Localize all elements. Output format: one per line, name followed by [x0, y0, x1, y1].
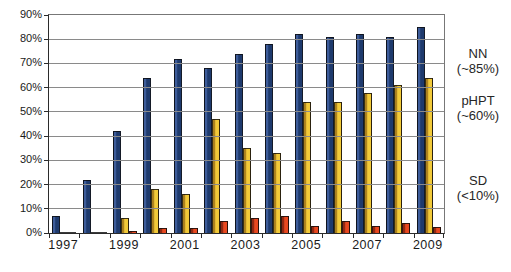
bar-pHPT-2004	[273, 153, 281, 233]
bar-NN-2004	[265, 44, 273, 233]
bar-SD-1998	[99, 232, 107, 233]
bar-pHPT-2006	[334, 102, 342, 233]
x-axis-label-2005: 2005	[291, 238, 321, 252]
bar-NN-2009	[417, 27, 425, 233]
bar-SD-2007	[372, 226, 380, 233]
bar-group-2000	[140, 15, 170, 233]
bar-group-1997	[49, 15, 79, 233]
bar-groups	[49, 15, 444, 233]
annotation-sd-value: (<10%)	[446, 188, 510, 203]
gridline-10%	[49, 208, 444, 209]
gridline-80%	[49, 39, 444, 40]
bar-pHPT-2000	[151, 189, 159, 233]
bar-pHPT-2001	[182, 194, 190, 233]
bar-group-2005	[292, 15, 322, 233]
gridline-40%	[49, 136, 444, 137]
gridline-30%	[49, 160, 444, 161]
bar-SD-2002	[220, 221, 228, 233]
bar-group-2003	[231, 15, 261, 233]
y-tick-10%	[44, 208, 49, 209]
bar-pHPT-2007	[364, 93, 372, 233]
gridline-50%	[49, 111, 444, 112]
annotation-nn: NN (~85%)	[446, 46, 510, 76]
y-tick-50%	[44, 111, 49, 112]
x-axis-label-1999: 1999	[109, 238, 139, 252]
gridline-60%	[49, 87, 444, 88]
x-tick-11	[383, 234, 384, 238]
x-tick-7	[262, 234, 263, 238]
y-axis-label-20%: 20%	[0, 179, 42, 190]
bar-SD-1999	[129, 231, 137, 233]
bar-SD-2001	[190, 228, 198, 233]
annotation-phpt-name: pHPT	[446, 93, 510, 108]
x-axis-label-2001: 2001	[170, 238, 200, 252]
y-axis-label-50%: 50%	[0, 106, 42, 117]
y-axis-label-60%: 60%	[0, 82, 42, 93]
y-tick-60%	[44, 87, 49, 88]
bar-SD-2009	[433, 227, 441, 233]
y-axis-label-90%: 90%	[0, 9, 42, 20]
bar-SD-2000	[159, 228, 167, 233]
bar-NN-2003	[235, 54, 243, 233]
x-tick-9	[322, 234, 323, 238]
x-axis-label-2007: 2007	[352, 238, 382, 252]
y-tick-70%	[44, 63, 49, 64]
bar-SD-2008	[402, 223, 410, 233]
y-axis-label-10%: 10%	[0, 203, 42, 214]
bar-pHPT-1997	[60, 232, 68, 233]
bar-pHPT-2005	[303, 102, 311, 233]
x-axis-label-2003: 2003	[231, 238, 261, 252]
x-axis-label-2009: 2009	[413, 238, 443, 252]
bar-chart: 0%10%20%30%40%50%60%70%80%90% 1997199920…	[0, 0, 511, 272]
y-axis-label-0%: 0%	[0, 227, 42, 238]
bar-SD-2006	[342, 221, 350, 233]
bar-group-2001	[171, 15, 201, 233]
y-axis-label-80%: 80%	[0, 33, 42, 44]
x-tick-1	[79, 234, 80, 238]
bar-SD-1997	[68, 232, 76, 233]
bar-group-2002	[201, 15, 231, 233]
bar-group-2007	[353, 15, 383, 233]
y-axis-label-40%: 40%	[0, 130, 42, 141]
y-tick-40%	[44, 136, 49, 137]
bar-group-2009	[414, 15, 444, 233]
y-tick-80%	[44, 39, 49, 40]
y-tick-90%	[44, 15, 49, 16]
plot-area	[48, 14, 445, 234]
annotation-phpt: pHPT (~60%)	[446, 93, 510, 123]
bar-pHPT-2003	[243, 148, 251, 233]
annotation-sd-name: SD	[446, 173, 510, 188]
bar-NN-1998	[83, 180, 91, 233]
bar-group-1999	[110, 15, 140, 233]
x-tick-3	[140, 234, 141, 238]
bar-SD-2004	[281, 216, 289, 233]
y-axis-label-30%: 30%	[0, 154, 42, 165]
bar-group-2006	[323, 15, 353, 233]
bar-group-2008	[383, 15, 413, 233]
bar-pHPT-2009	[425, 78, 433, 233]
y-tick-30%	[44, 160, 49, 161]
annotation-sd: SD (<10%)	[446, 173, 510, 203]
bar-NN-2000	[143, 78, 151, 233]
bar-NN-2005	[295, 34, 303, 233]
bar-group-1998	[79, 15, 109, 233]
bar-group-2004	[262, 15, 292, 233]
y-axis-label-70%: 70%	[0, 57, 42, 68]
y-tick-20%	[44, 184, 49, 185]
x-axis-label-1997: 1997	[48, 238, 78, 252]
bar-NN-1999	[113, 131, 121, 233]
bar-SD-2005	[311, 226, 319, 233]
bar-NN-2007	[356, 34, 364, 233]
gridline-70%	[49, 63, 444, 64]
bar-pHPT-1999	[121, 218, 129, 233]
annotation-nn-value: (~85%)	[446, 61, 510, 76]
bar-pHPT-1998	[91, 232, 99, 233]
x-tick-5	[201, 234, 202, 238]
x-tick-end	[443, 234, 444, 238]
annotation-nn-name: NN	[446, 46, 510, 61]
bar-NN-1997	[52, 216, 60, 233]
annotation-phpt-value: (~60%)	[446, 108, 510, 123]
bar-NN-2001	[174, 59, 182, 233]
bar-SD-2003	[251, 218, 259, 233]
gridline-20%	[49, 184, 444, 185]
